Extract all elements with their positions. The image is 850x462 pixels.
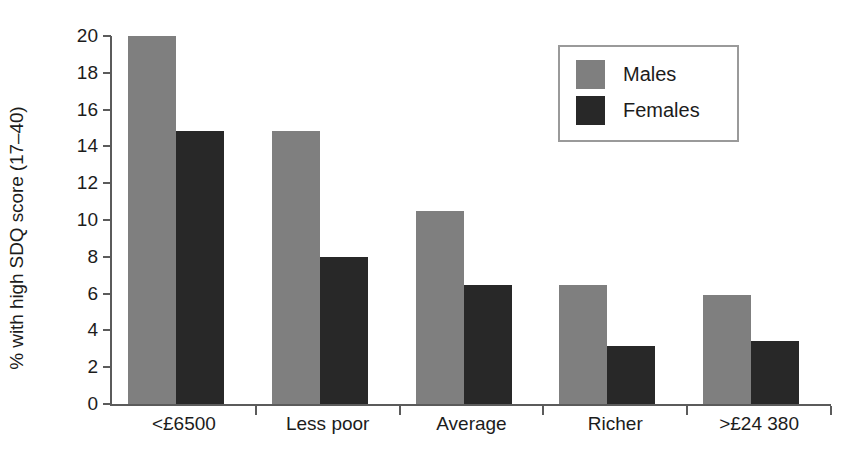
y-tick-label: 2 xyxy=(58,357,98,376)
y-tick-label: 14 xyxy=(58,136,98,155)
bar-males xyxy=(128,36,176,404)
y-tick-label: 4 xyxy=(58,320,98,339)
y-tick-label: 20 xyxy=(58,26,98,45)
y-tick-label: 0 xyxy=(58,394,98,413)
y-tick-mark xyxy=(103,219,111,221)
x-tick-label: >£24 380 xyxy=(687,414,831,435)
y-tick-mark xyxy=(103,293,111,295)
y-tick-mark xyxy=(103,72,111,74)
y-tick-mark xyxy=(103,256,111,258)
x-axis-line xyxy=(110,404,831,406)
y-tick-label: 18 xyxy=(58,63,98,82)
bar-males xyxy=(416,211,464,404)
legend-swatch-males-icon xyxy=(576,60,605,89)
x-tick-label: Less poor xyxy=(256,414,400,435)
x-tick-label: <£6500 xyxy=(112,414,256,435)
y-tick-mark xyxy=(103,35,111,37)
y-tick-label: 8 xyxy=(58,247,98,266)
y-tick-label: 10 xyxy=(58,210,98,229)
bar-chart-figure: % with high SDQ score (17–40) 0246810121… xyxy=(0,0,850,462)
legend-label-males: Males xyxy=(623,63,676,86)
bar-females xyxy=(464,285,512,404)
y-tick-label: 6 xyxy=(58,284,98,303)
y-tick-mark xyxy=(103,366,111,368)
x-tick-label: Richer xyxy=(543,414,687,435)
bar-females xyxy=(176,131,224,404)
legend-item-females: Females xyxy=(576,96,700,125)
bar-males xyxy=(559,285,607,404)
legend-label-females: Females xyxy=(623,99,700,122)
bar-females xyxy=(320,257,368,404)
legend-item-males: Males xyxy=(576,60,676,89)
y-tick-mark xyxy=(103,109,111,111)
y-tick-mark xyxy=(103,145,111,147)
legend: Males Females xyxy=(558,45,739,142)
y-tick-mark xyxy=(103,329,111,331)
y-tick-label: 16 xyxy=(58,100,98,119)
y-tick-mark xyxy=(103,403,111,405)
y-tick-mark xyxy=(103,182,111,184)
y-axis-title: % with high SDQ score (17–40) xyxy=(0,43,34,433)
bar-females xyxy=(607,346,655,404)
bar-females xyxy=(751,341,799,404)
y-tick-label: 12 xyxy=(58,173,98,192)
legend-swatch-females-icon xyxy=(576,96,605,125)
x-tick-label: Average xyxy=(400,414,544,435)
bar-males xyxy=(703,295,751,404)
bar-males xyxy=(272,131,320,404)
